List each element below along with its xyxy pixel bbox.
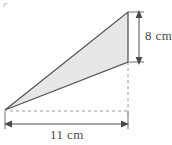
base-dimension-label: 11 cm: [50, 127, 84, 143]
height-arrowhead-bottom: [136, 57, 143, 65]
height-dimension-line: [136, 10, 143, 65]
geometry-figure: c 8 cm 11 cm: [0, 0, 172, 145]
height-dimension-label: 8 cm: [145, 28, 172, 44]
triangle-diagram-svg: [0, 0, 172, 145]
shaded-triangle: [5, 12, 128, 110]
height-arrowhead-top: [136, 10, 143, 18]
